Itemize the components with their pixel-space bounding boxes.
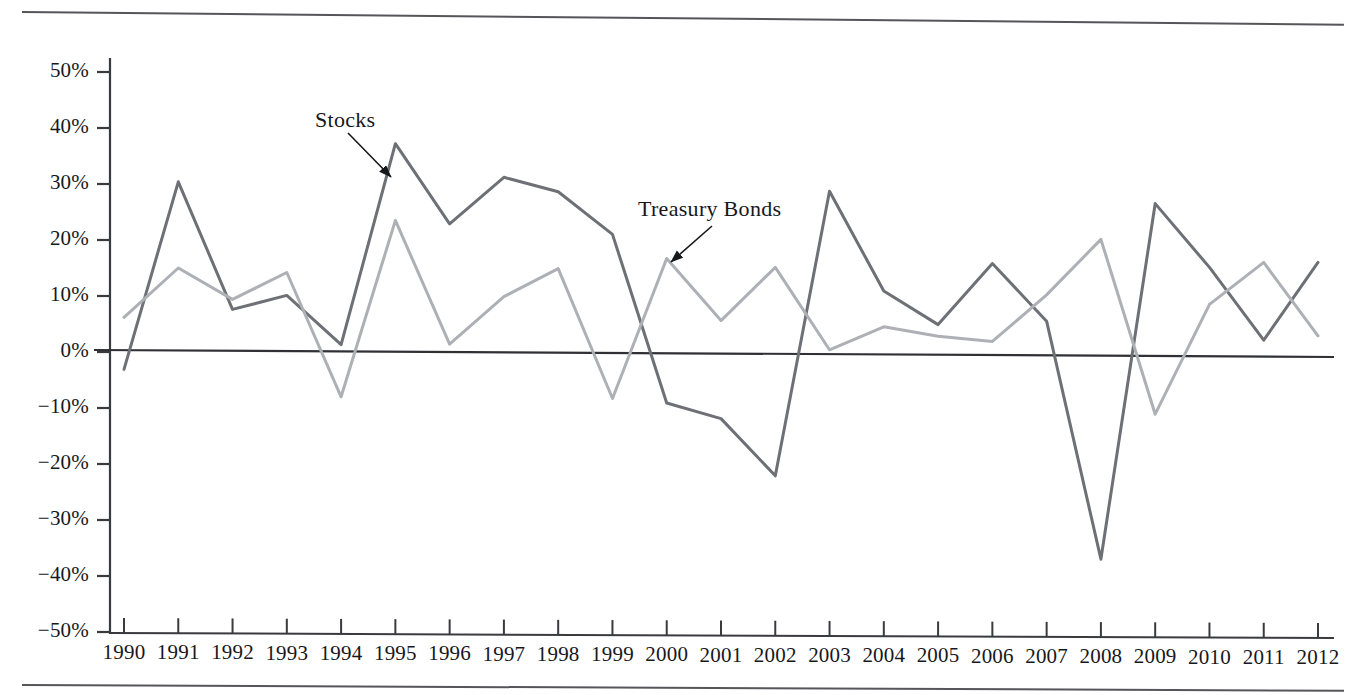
x-tick-label: 1990 [95, 640, 153, 665]
x-tick-label: 2007 [1018, 644, 1076, 669]
x-tick-label: 2003 [801, 643, 859, 668]
y-tick-label: −10% [38, 394, 89, 419]
x-tick-label: 1996 [421, 641, 479, 666]
line-chart-plot-area [0, 0, 1368, 695]
x-tick-label: 2008 [1072, 644, 1130, 669]
x-tick-label: 1993 [258, 641, 316, 666]
y-tick-label: 30% [50, 170, 89, 195]
y-tick-label: −50% [38, 618, 89, 643]
y-tick-label: −30% [38, 506, 89, 531]
annotation-label-treasury-bonds: Treasury Bonds [638, 196, 781, 222]
y-tick-label: −40% [38, 562, 89, 587]
y-tick-label: 40% [50, 114, 89, 139]
x-tick-label: 1995 [366, 641, 424, 666]
y-tick-label: −20% [38, 450, 89, 475]
x-tick-label: 2010 [1180, 645, 1238, 670]
x-tick-label: 1997 [475, 642, 533, 667]
x-tick-label: 1999 [583, 642, 641, 667]
x-tick-label: 1994 [312, 641, 370, 666]
x-tick-label: 1992 [204, 640, 262, 665]
x-tick-label: 2002 [746, 643, 804, 668]
annotation-label-stocks: Stocks [315, 107, 375, 133]
x-tick-label: 2006 [963, 644, 1021, 669]
x-tick-label: 2001 [692, 643, 750, 668]
chart-axes [94, 58, 1334, 638]
x-tick-label: 2000 [638, 642, 696, 667]
annotation-arrow-treasury-bonds [671, 226, 712, 262]
y-tick-label: 20% [50, 226, 89, 251]
chart-figure: 50%40%30%20%10%0%−10%−20%−30%−40%−50% 19… [0, 0, 1368, 695]
x-tick-label: 2005 [909, 643, 967, 668]
x-tick-label: 2011 [1235, 645, 1293, 670]
y-tick-label: 0% [61, 338, 89, 363]
y-tick-label: 10% [50, 282, 89, 307]
x-tick-label: 1991 [149, 640, 207, 665]
x-tick-label: 1998 [529, 642, 587, 667]
x-tick-label: 2012 [1289, 645, 1347, 670]
x-tick-label: 2009 [1126, 644, 1184, 669]
x-tick-label: 2004 [855, 643, 913, 668]
y-tick-label: 50% [50, 58, 89, 83]
annotation-arrow-stocks [348, 133, 391, 177]
